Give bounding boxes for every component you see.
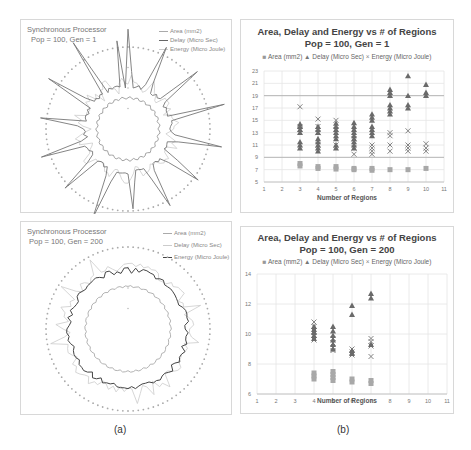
svg-text:6: 6: [352, 186, 355, 192]
svg-text:5: 5: [255, 179, 258, 185]
svg-text:9: 9: [406, 186, 409, 192]
x-axis-label: Number of Regions: [241, 397, 453, 404]
scatter-chart-gen1: Area, Delay and Energy vs # of Regions P…: [240, 19, 454, 213]
svg-text:3: 3: [298, 186, 301, 192]
svg-text:7: 7: [370, 186, 373, 192]
x-axis-label: Number of Regions: [241, 194, 453, 201]
svg-text:8: 8: [388, 186, 391, 192]
svg-text:21: 21: [252, 80, 258, 86]
svg-text:5: 5: [334, 186, 337, 192]
svg-text:13: 13: [252, 130, 258, 136]
svg-text:19: 19: [252, 93, 258, 99]
svg-text:14: 14: [245, 271, 251, 277]
radar-chart-gen1: Synchronous Processor Pop = 100, Gen = 1…: [20, 19, 232, 213]
svg-text:17: 17: [252, 105, 258, 111]
svg-text:9: 9: [255, 154, 258, 160]
radar-plot: [21, 20, 233, 214]
svg-text:2: 2: [280, 186, 283, 192]
scatter-plot: 123456789101168101214: [241, 227, 455, 415]
svg-text:4: 4: [316, 186, 319, 192]
caption-b: (b): [337, 424, 349, 435]
svg-text:11: 11: [252, 142, 258, 148]
caption-a: (a): [114, 424, 126, 435]
svg-text:23: 23: [252, 68, 258, 74]
radar-chart-gen200: Synchronous Processor Pop = 100, Gen = 2…: [20, 221, 232, 415]
svg-text:10: 10: [423, 186, 429, 192]
svg-text:7: 7: [255, 167, 258, 173]
svg-text:15: 15: [252, 117, 258, 123]
radar-plot: [21, 222, 233, 416]
svg-text:11: 11: [441, 186, 447, 192]
svg-text:8: 8: [248, 361, 251, 367]
svg-text:10: 10: [245, 331, 251, 337]
scatter-plot: 123456789101157911131517192123: [241, 20, 455, 214]
svg-text:12: 12: [245, 301, 251, 307]
svg-text:1: 1: [262, 186, 265, 192]
scatter-chart-gen200: Area, Delay and Energy vs # of Regions P…: [240, 226, 454, 414]
